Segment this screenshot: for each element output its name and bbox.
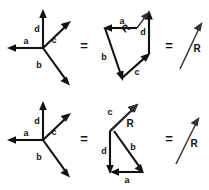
equals-sign-top-left: = xyxy=(80,38,88,53)
vector-d-polygon-bottom xyxy=(106,131,114,174)
label-c-star-bottom: c xyxy=(51,127,56,137)
label-d-star-bottom: d xyxy=(34,116,40,126)
resultant-vector-polygon-top xyxy=(137,12,150,29)
label-d-star-top: d xyxy=(34,24,40,34)
bottom-row: a d c b = xyxy=(7,101,200,185)
vector-b-polygon-top xyxy=(105,28,124,81)
top-row: a d c b = xyxy=(7,9,203,86)
equals-sign-bottom-right: = xyxy=(165,131,173,146)
head-to-tail-polygon-top: a b c d R xyxy=(101,10,153,81)
label-b-polygon-top: b xyxy=(101,52,107,62)
equals-sign-top-right: = xyxy=(165,38,173,53)
vector-d-star-bottom xyxy=(39,101,47,140)
resultant-vector-polygon-bottom xyxy=(111,104,139,132)
concurrent-vector-star-bottom: a d c b xyxy=(7,101,71,178)
label-a-star-top: a xyxy=(23,36,29,46)
label-R-polygon-bottom: R xyxy=(126,118,134,129)
resultant-arrow-bottom: R xyxy=(176,117,200,164)
label-b-polygon-bottom: b xyxy=(130,142,136,152)
vector-b-polygon-bottom xyxy=(114,131,144,174)
label-d-polygon-bottom: d xyxy=(101,146,107,156)
equals-sign-bottom-left: = xyxy=(80,131,88,146)
vector-c-star-top xyxy=(43,21,71,48)
label-b-star-top: b xyxy=(36,60,42,70)
vector-b-star-top xyxy=(43,48,70,86)
vector-diagram-canvas: a d c b = xyxy=(0,0,209,190)
label-c-star-top: c xyxy=(51,35,56,45)
vector-c-star-bottom xyxy=(43,113,71,140)
label-a-polygon-bottom: a xyxy=(124,175,130,185)
resultant-arrow-top: R xyxy=(180,22,203,69)
label-R-resultant-top: R xyxy=(193,43,201,54)
label-a-star-bottom: a xyxy=(23,128,29,138)
concurrent-vector-star-top: a d c b xyxy=(7,9,71,86)
label-c-polygon-bottom: c xyxy=(107,107,112,117)
label-b-star-bottom: b xyxy=(36,152,42,162)
head-to-tail-polygon-bottom: d a b c R xyxy=(101,104,144,186)
label-c-polygon-top: c xyxy=(134,67,139,77)
label-R-resultant-bottom: R xyxy=(190,138,198,149)
label-d-polygon-top: d xyxy=(140,27,146,37)
vector-d-star-top xyxy=(39,9,47,48)
vector-b-star-bottom xyxy=(43,140,70,178)
vector-addition-figure: a d c b = xyxy=(0,0,209,190)
